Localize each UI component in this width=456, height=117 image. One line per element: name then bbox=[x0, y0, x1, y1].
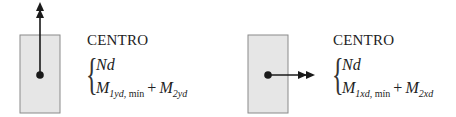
plus-operator: + bbox=[144, 79, 159, 96]
axial-force-label: Nd bbox=[342, 56, 361, 74]
moment-sub-1-roman: , mín bbox=[370, 88, 391, 99]
moment-sub-1: 1xd, mín bbox=[355, 88, 390, 99]
moment-symbol-2: M bbox=[159, 79, 172, 96]
moment-sub-2: 2xd bbox=[419, 88, 433, 99]
moment-symbol-2: M bbox=[405, 79, 418, 96]
moment-sub-1-italic: 1yd bbox=[109, 88, 123, 99]
moment-sub-2: 2yd bbox=[173, 88, 187, 99]
moment-expression: M1yd, mín+M2yd bbox=[96, 79, 187, 99]
position-title: CENTRO bbox=[87, 32, 148, 49]
moment-sub-1: 1yd, mín bbox=[109, 88, 144, 99]
moment-sub-1-roman: , mín bbox=[124, 88, 145, 99]
moment-sub-1-italic: 1xd bbox=[355, 88, 369, 99]
moment-symbol-1: M bbox=[96, 79, 109, 96]
arrow-right-head-outer bbox=[306, 71, 315, 79]
position-title: CENTRO bbox=[333, 32, 394, 49]
load-point-left bbox=[36, 71, 44, 79]
plus-operator: + bbox=[390, 79, 405, 96]
axial-force-label: Nd bbox=[96, 56, 115, 74]
moment-expression: M1xd, mín+M2xd bbox=[342, 79, 433, 99]
moment-symbol-1: M bbox=[342, 79, 355, 96]
arrow-right-head-inner bbox=[298, 71, 307, 79]
diagram-canvas bbox=[0, 0, 456, 117]
load-point-right bbox=[264, 71, 272, 79]
